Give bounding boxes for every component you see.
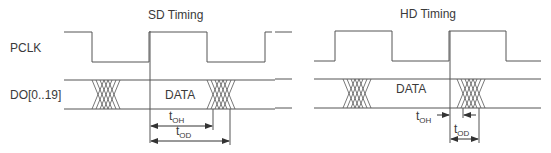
hd-toh-sub: OH <box>419 116 431 125</box>
hd-transition-left <box>343 79 371 108</box>
sd-tod-label: tOD <box>176 125 191 140</box>
sd-transition-right <box>207 80 235 109</box>
hd-tod-sub: OD <box>457 129 469 138</box>
pclk-label: PCLK <box>10 42 41 54</box>
hd-timing-title: HD Timing <box>400 8 456 20</box>
sd-pclk-waveform <box>64 32 272 62</box>
sd-timing-title: SD Timing <box>148 9 203 21</box>
hd-pclk-waveform-main <box>314 31 541 61</box>
data-bus-label: DO[0..19] <box>10 89 61 101</box>
sd-tod-sub: OD <box>179 131 191 140</box>
sd-toh-label: tOH <box>169 110 184 125</box>
hd-tod-label: tOD <box>454 123 469 138</box>
sd-data-label: DATA <box>165 89 195 101</box>
hd-data-label: DATA <box>396 83 426 95</box>
hd-transition-right <box>457 79 485 108</box>
sd-transition-left <box>92 80 120 109</box>
hd-toh-label: tOH <box>416 110 431 125</box>
